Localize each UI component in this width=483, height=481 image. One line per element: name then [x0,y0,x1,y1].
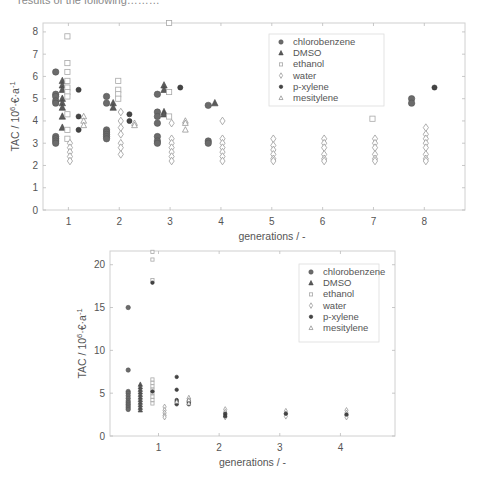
chlorobenzene-data-point [103,100,109,106]
legend-entry-chlorobenzene: chlorobenzene [323,266,385,277]
legend-entry-water: water [292,70,316,81]
x-tick-label: 1 [66,216,72,227]
y-axis-label: TAC / 106·€·a-1 [75,308,88,378]
chart-top-tac-vs-generations: 01234567812345678generations / -TAC / 10… [0,0,483,240]
water-data-point [220,117,225,125]
chlorobenzene-data-point [126,407,130,411]
water-data-point [118,131,123,139]
legend-entry-dmso: DMSO [293,47,322,58]
ethanol-data-point [116,78,121,83]
axes: 01234567812345678generations / -TAC / 10… [8,23,465,242]
ethanol-data-point [370,116,375,121]
chlorobenzene-data-point [154,91,160,97]
chlorobenzene-data-point [205,140,211,146]
legend: chlorobenzeneDMSOethanolwaterp-xylenemes… [269,34,384,106]
y-tick-label: 7 [32,49,38,60]
series-mesitylene [175,395,191,405]
legend-entry-chlorobenzene: chlorobenzene [293,36,355,47]
legend-entry-ethanol: ethanol [293,58,324,69]
x-tick-label: 3 [277,442,283,453]
chlorobenzene-data-point [103,93,109,99]
series-dmso [138,382,142,412]
p-xylene-data-point [76,114,81,119]
p-xylene-data-point [345,413,349,417]
p-xylene-data-point [309,315,313,319]
water-data-point [169,119,174,127]
p-xylene-data-point [175,388,179,392]
chlorobenzene-data-point [126,368,130,372]
ethanol-data-point [166,20,171,25]
chlorobenzene-data-point [53,69,59,75]
ethanol-data-point [65,60,70,65]
plot-frame [43,23,465,210]
y-tick-label: 8 [32,26,38,37]
chlorobenzene-data-point [154,113,160,119]
chlorobenzene-data-point [279,40,283,44]
legend-entry-mesitylene: mesitylene [293,92,338,103]
chlorobenzene-data-point [126,305,130,309]
legend-entry-dmso: DMSO [323,277,352,288]
ethanol-data-point [151,385,154,388]
chlorobenzene-data-point [103,136,109,142]
y-tick-label: 3 [32,138,38,149]
p-xylene-data-point [223,415,227,419]
x-tick-label: 7 [371,216,377,227]
ethanol-data-point [65,34,70,39]
legend-entry-mesitylene: mesitylene [323,322,368,333]
p-xylene-data-point [284,412,288,416]
ethanol-data-point [279,63,282,66]
x-tick-label: 4 [218,216,224,227]
x-tick-label: 1 [156,442,162,453]
chlorobenzene-data-point [205,102,211,108]
ethanol-data-point [151,398,154,401]
p-xylene-data-point [432,85,437,90]
p-xylene-data-point [151,281,155,285]
water-data-point [118,151,123,159]
x-tick-label: 6 [320,216,326,227]
chlorobenzene-data-point [309,270,313,274]
y-axis-label: TAC / 106·€·a-1 [8,81,21,151]
p-xylene-data-point [127,118,132,123]
p-xylene-data-point [76,127,81,132]
legend-entry-p-xylene: p-xylene [293,81,329,92]
ethanol-data-point [151,381,154,384]
y-tick-label: 4 [32,115,38,126]
x-tick-label: 3 [167,216,173,227]
chlorobenzene-data-point [154,140,160,146]
series-ethanol [151,250,154,405]
p-xylene-data-point [178,85,183,90]
ethanol-data-point [151,258,154,261]
series-chlorobenzene [126,305,130,411]
chart-bottom-tac-vs-generations: 051015201234generations / -TAC / 106·€·a… [0,240,483,481]
ethanol-data-point [151,402,154,405]
legend: chlorobenzeneDMSOethanolwaterp-xylenemes… [299,264,385,342]
water-data-point [118,108,123,116]
p-xylene-data-point [76,87,81,92]
y-tick-label: 5 [32,93,38,104]
mesitylene-data-point [182,127,188,132]
x-tick-label: 4 [338,442,344,453]
ethanol-data-point [151,378,154,381]
x-tick-label: 8 [422,216,428,227]
ethanol-data-point [65,69,70,74]
y-tick-label: 10 [94,345,106,356]
y-tick-label: 20 [94,259,106,270]
y-tick-label: 5 [99,388,105,399]
y-tick-label: 0 [99,431,105,442]
p-xylene-data-point [127,112,132,117]
ethanol-data-point [166,114,171,119]
x-tick-label: 5 [269,216,275,227]
ethanol-data-point [166,89,171,94]
y-tick-label: 1 [32,182,38,193]
ethanol-data-point [151,395,154,398]
chart-top-svg: 01234567812345678generations / -TAC / 10… [0,0,483,240]
ethanol-data-point [309,293,312,296]
ethanol-data-point [65,127,70,132]
chlorobenzene-data-point [154,120,160,126]
y-tick-label: 15 [94,302,106,313]
legend-entry-water: water [322,300,346,311]
x-tick-label: 2 [216,442,222,453]
chlorobenzene-data-point [53,100,59,106]
dmso-data-point [212,99,218,105]
chart-bottom-svg: 051015201234generations / -TAC / 106·€·a… [0,240,483,481]
